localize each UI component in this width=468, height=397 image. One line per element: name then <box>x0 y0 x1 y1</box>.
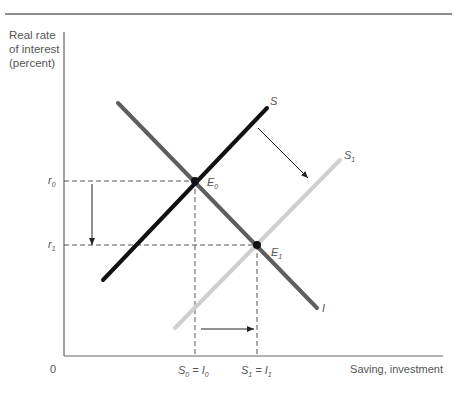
guide-lines <box>64 181 257 356</box>
s-curve-label: S <box>270 95 278 107</box>
y-tick-r1: r1 <box>48 238 56 252</box>
s1-curve-label: S1 <box>344 149 355 163</box>
origin-label: 0 <box>50 363 56 375</box>
x-tick-s0-i0: S0=I0 <box>178 364 209 378</box>
e1-label: E1 <box>271 246 282 260</box>
saving-investment-diagram: S S1 I E0 E1 r0 r1 0 S0=I0 S1=I1 Saving,… <box>0 0 468 397</box>
equilibrium-e0-dot <box>191 177 199 185</box>
shift-arrow-s <box>258 128 308 178</box>
equilibrium-e1-dot <box>253 241 261 249</box>
saving-curve <box>103 108 267 280</box>
investment-curve <box>118 103 317 308</box>
x-tick-s1-i1: S1=I1 <box>241 364 272 378</box>
y-tick-r0: r0 <box>48 174 56 188</box>
i-curve-label: I <box>322 302 325 314</box>
e0-label: E0 <box>207 176 218 190</box>
x-axis-label: Saving, investment <box>350 363 443 375</box>
